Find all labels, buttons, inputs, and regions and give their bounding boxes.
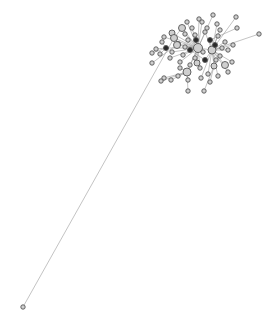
graph-node	[226, 48, 230, 52]
graph-node	[205, 26, 209, 30]
graph-node	[181, 53, 185, 57]
graph-node	[168, 56, 172, 60]
graph-node	[183, 68, 191, 76]
graph-node	[220, 46, 224, 50]
graph-node	[186, 38, 190, 42]
graph-edges	[23, 15, 259, 307]
graph-node	[174, 42, 181, 49]
graph-node	[158, 52, 162, 56]
graph-node	[183, 45, 187, 49]
graph-node	[216, 74, 220, 78]
graph-nodes	[21, 13, 261, 309]
graph-node	[179, 25, 186, 32]
graph-node	[200, 20, 204, 24]
graph-node	[216, 34, 220, 38]
graph-node	[222, 62, 229, 69]
graph-node	[178, 66, 182, 70]
graph-node	[178, 60, 182, 64]
graph-node	[257, 32, 261, 36]
graph-node	[160, 40, 164, 44]
graph-node	[198, 66, 202, 70]
graph-node	[208, 80, 212, 84]
graph-node	[194, 60, 200, 66]
graph-node	[193, 33, 197, 37]
graph-node	[190, 26, 194, 30]
graph-node	[169, 78, 173, 82]
graph-node	[230, 60, 234, 64]
graph-node	[170, 50, 174, 54]
graph-node	[235, 26, 239, 30]
graph-node	[234, 15, 238, 19]
graph-node	[186, 78, 190, 82]
graph-node	[183, 32, 187, 36]
graph-node	[218, 28, 222, 32]
graph-node	[188, 63, 192, 67]
graph-node	[154, 47, 158, 51]
graph-node	[186, 89, 190, 93]
graph-node	[203, 58, 208, 63]
graph-node	[211, 13, 215, 17]
graph-node	[159, 79, 163, 83]
graph-node	[213, 43, 218, 48]
graph-node	[150, 61, 154, 65]
graph-edge	[23, 38, 174, 307]
network-graph-canvas	[0, 0, 273, 321]
graph-node	[193, 56, 197, 60]
graph-node	[206, 72, 210, 76]
graph-node	[223, 40, 227, 44]
graph-node	[21, 305, 25, 309]
graph-node	[231, 43, 235, 47]
graph-node	[215, 22, 219, 26]
graph-node	[150, 51, 154, 55]
graph-node	[208, 38, 213, 43]
graph-node	[164, 46, 169, 51]
graph-node	[185, 20, 189, 24]
graph-node	[202, 89, 206, 93]
network-graph	[0, 0, 273, 321]
graph-node	[162, 35, 166, 39]
graph-node	[214, 58, 218, 62]
graph-node	[176, 74, 180, 78]
graph-node	[171, 35, 178, 42]
graph-node	[199, 76, 203, 80]
graph-node	[201, 50, 205, 54]
graph-node	[226, 70, 230, 74]
graph-node	[188, 48, 193, 53]
graph-node	[194, 38, 199, 43]
graph-node	[218, 54, 222, 58]
graph-node	[211, 63, 217, 69]
